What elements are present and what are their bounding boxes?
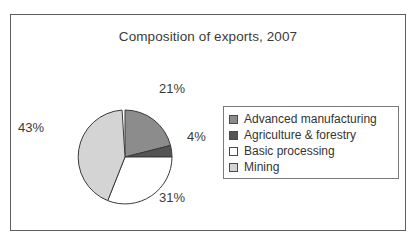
legend-label-agriculture-forestry: Agriculture & forestry <box>244 127 356 143</box>
pie-label-advanced-manufacturing: 21% <box>159 81 185 96</box>
legend-swatch-agriculture-forestry <box>229 131 238 140</box>
legend-swatch-basic-processing <box>229 147 238 156</box>
legend-swatch-mining <box>229 163 238 172</box>
legend: Advanced manufacturing Agriculture & for… <box>223 106 399 179</box>
legend-item-basic-processing[interactable]: Basic processing <box>229 143 398 159</box>
legend-swatch-advanced-manufacturing <box>229 115 238 124</box>
legend-item-advanced-manufacturing[interactable]: Advanced manufacturing <box>229 111 398 127</box>
legend-label-basic-processing: Basic processing <box>244 143 335 159</box>
legend-item-agriculture-forestry[interactable]: Agriculture & forestry <box>229 127 398 143</box>
legend-label-advanced-manufacturing: Advanced manufacturing <box>244 111 377 127</box>
legend-item-mining[interactable]: Mining <box>229 159 398 175</box>
chart-frame: Composition of exports, 2007 21% 4% 31% … <box>10 14 406 231</box>
chart-title: Composition of exports, 2007 <box>11 29 405 44</box>
pie-label-agriculture-forestry: 4% <box>187 129 206 144</box>
legend-label-mining: Mining <box>244 159 279 175</box>
pie-label-mining: 43% <box>18 120 44 135</box>
pie-label-basic-processing: 31% <box>159 190 185 205</box>
